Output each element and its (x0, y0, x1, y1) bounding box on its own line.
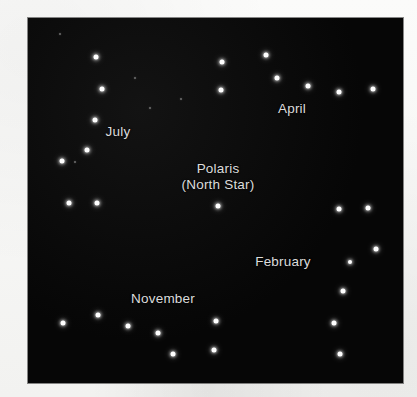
star-february (332, 321, 337, 326)
star-april (337, 90, 342, 95)
label-polaris-subtitle: (North Star) (182, 177, 255, 193)
star-february (337, 207, 342, 212)
star-november (61, 321, 66, 326)
star-november (126, 324, 131, 329)
star-april (275, 76, 280, 81)
star-july (67, 201, 72, 206)
star-november (214, 319, 219, 324)
label-polaris: Polaris(North Star) (182, 161, 255, 193)
star-chart-page: JulyAprilFebruaryNovemberPolaris(North S… (0, 0, 417, 397)
star-april (306, 84, 311, 89)
star-november (156, 331, 161, 336)
star-november (96, 313, 101, 318)
star-polaris (216, 204, 221, 209)
star-november (212, 348, 217, 353)
star-february (366, 206, 371, 211)
label-february: February (255, 254, 311, 270)
star-february (348, 260, 352, 264)
star-april (220, 60, 225, 65)
star-july (93, 118, 98, 123)
label-april: April (278, 101, 306, 117)
label-november: November (131, 291, 195, 307)
star-april (371, 87, 376, 92)
night-sky-panel: JulyAprilFebruaryNovemberPolaris(North S… (28, 18, 403, 383)
faint-star (134, 77, 136, 79)
star-july (85, 148, 90, 153)
faint-star (149, 107, 151, 109)
faint-star (59, 33, 61, 35)
star-july (100, 87, 105, 92)
faint-star (180, 98, 182, 100)
star-february (341, 289, 346, 294)
star-november (171, 352, 176, 357)
star-february (374, 247, 379, 252)
star-april (219, 88, 224, 93)
star-february (338, 352, 343, 357)
star-july (95, 201, 100, 206)
faint-star (74, 161, 76, 163)
star-july (60, 159, 65, 164)
star-april (264, 53, 269, 58)
label-july: July (106, 124, 131, 140)
label-polaris-name: Polaris (197, 161, 240, 176)
star-july (94, 55, 99, 60)
night-sky-gradient (28, 18, 403, 383)
